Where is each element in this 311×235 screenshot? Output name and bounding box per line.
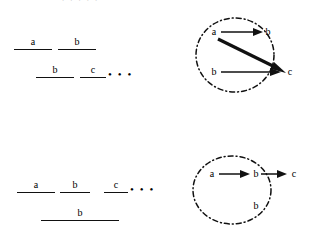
segment-line xyxy=(80,77,106,78)
node-label-a: a xyxy=(207,169,217,179)
segment-row: b xyxy=(0,203,175,221)
segment-b: b xyxy=(36,60,74,78)
ellipsis: • • • xyxy=(130,184,155,195)
node-label-c: c xyxy=(285,67,295,77)
segment-line xyxy=(104,192,128,193)
node-label-b-upper: b xyxy=(263,27,273,37)
segment-label: a xyxy=(14,37,52,47)
segment-line xyxy=(60,192,90,193)
segment-row: a b xyxy=(0,32,160,50)
segment-b: b xyxy=(60,175,90,193)
segment-label: b xyxy=(36,65,74,75)
segment-line xyxy=(41,220,119,221)
segment-line xyxy=(14,49,52,50)
segment-label: a xyxy=(17,180,55,190)
boundary-circle-icon xyxy=(193,156,271,224)
segment-b: b xyxy=(58,32,96,50)
node-label-b-bottom: b xyxy=(251,201,261,211)
segment-c: c xyxy=(104,175,128,193)
segment-label: c xyxy=(80,65,106,75)
segment-label: b xyxy=(58,37,96,47)
interval-diagram-bottom: a b c • • • b xyxy=(0,140,175,230)
edge-a-to-b xyxy=(221,28,263,36)
segment-a: a xyxy=(17,175,55,193)
figure-root: . . . . . a b b c • • • xyxy=(0,0,311,235)
segment-b-long: b xyxy=(41,203,119,221)
edge-b-to-c xyxy=(221,68,281,76)
segment-line xyxy=(17,192,55,193)
segment-row: b c • • • xyxy=(0,60,160,78)
segment-row: a b c • • • xyxy=(0,175,175,193)
segment-label: b xyxy=(41,208,119,218)
graph-diagram-top: a b c b xyxy=(185,8,311,108)
node-label-a: a xyxy=(209,27,219,37)
segment-a: a xyxy=(14,32,52,50)
graph-diagram-bottom: a b c b xyxy=(185,150,311,232)
segment-line xyxy=(36,77,74,78)
segment-label: c xyxy=(104,180,128,190)
edge-a-to-b xyxy=(219,170,250,178)
segment-label: b xyxy=(60,180,90,190)
segment-line xyxy=(58,49,96,50)
interval-diagram-top: a b b c • • • xyxy=(0,0,160,100)
node-label-b-inner: b xyxy=(251,169,261,179)
edge-a-to-c xyxy=(218,39,286,73)
segment-c: c xyxy=(80,60,106,78)
ellipsis: • • • xyxy=(108,69,133,80)
node-label-b-lower: b xyxy=(209,67,219,77)
node-label-c: c xyxy=(289,169,299,179)
